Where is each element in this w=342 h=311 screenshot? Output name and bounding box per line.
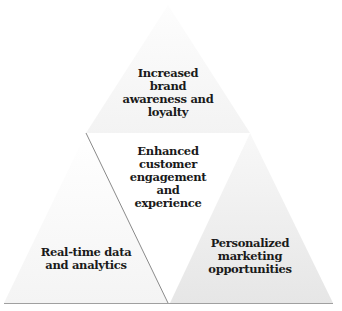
pyramid-diagram: Increased brand awareness and loyalty En… <box>0 0 342 311</box>
segment-middle-label: Enhanced customer engagement and experie… <box>118 145 218 210</box>
segment-top-label: Increased brand awareness and loyalty <box>118 67 218 119</box>
segment-bottom-right-label: Personalized marketing opportunities <box>200 237 300 276</box>
segment-bottom-left-label: Real-time data and analytics <box>36 246 136 272</box>
